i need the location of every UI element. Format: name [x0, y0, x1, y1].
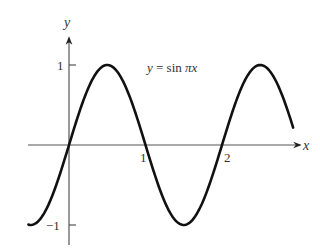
x-tick-label-1: 1: [140, 150, 147, 165]
y-tick-label-neg1: −1: [46, 218, 60, 233]
y-axis-label: y: [62, 15, 71, 30]
x-tick-label-2: 2: [224, 150, 231, 165]
equation-label: y = sin πx: [145, 60, 198, 75]
x-axis-label: x: [302, 138, 310, 153]
y-tick-label-1: 1: [57, 58, 64, 73]
sine-graph: y x 1 −1 1 2 y = sin πx: [0, 0, 320, 250]
